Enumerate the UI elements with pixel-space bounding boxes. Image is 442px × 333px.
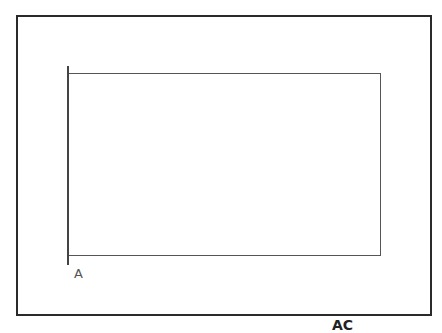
bottom-cut-label: AC [332,318,353,332]
inner-rectangle [68,73,381,256]
point-a-label: A [74,267,83,280]
left-vertical-line [67,66,69,265]
